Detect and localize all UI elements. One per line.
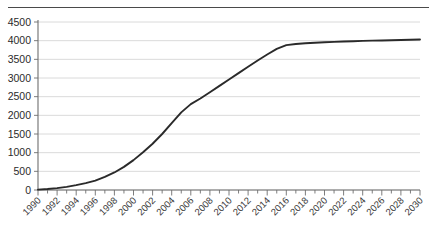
x-tick-label: 2004 [154, 195, 177, 218]
x-tick-label: 2026 [364, 195, 387, 218]
axis-lines [38, 20, 420, 190]
x-tick-label: 2022 [326, 195, 349, 218]
x-tick-label: 1990 [20, 195, 43, 218]
series-line [38, 40, 420, 190]
x-tick-label: 1992 [39, 195, 62, 218]
line-chart: 050010001500200025003000350040004500 199… [0, 0, 437, 233]
y-tick-label: 4500 [8, 16, 32, 28]
y-tick-label: 3000 [8, 72, 32, 84]
y-tick-label: 0 [25, 184, 31, 196]
x-tick-label: 1998 [97, 195, 120, 218]
x-tick-label: 2030 [402, 195, 425, 218]
x-tick-label: 2010 [211, 195, 234, 218]
y-tick-label: 1000 [8, 146, 32, 158]
x-tick-label: 2014 [249, 195, 272, 218]
x-tick-label: 2028 [383, 195, 406, 218]
x-axis-tick-labels: 1990199219941996199820002002200420062008… [20, 195, 425, 218]
y-tick-label: 2500 [8, 90, 32, 102]
x-tick-label: 2008 [192, 195, 215, 218]
y-tick-label: 3500 [8, 53, 32, 65]
x-tick-label: 1996 [77, 195, 100, 218]
chart-plot-area: 050010001500200025003000350040004500 199… [0, 0, 437, 233]
x-tick-label: 2012 [230, 195, 253, 218]
y-tick-label: 2000 [8, 109, 32, 121]
y-tick-label: 4000 [8, 34, 32, 46]
x-tick-label: 1994 [58, 195, 81, 218]
y-tick-marks [34, 22, 38, 190]
x-tick-label: 2018 [288, 195, 311, 218]
x-tick-marks [38, 190, 420, 196]
data-series [38, 40, 420, 190]
y-tick-label: 1500 [8, 128, 32, 140]
y-tick-label: 500 [13, 165, 31, 177]
x-tick-label: 2006 [173, 195, 196, 218]
x-tick-label: 2020 [307, 195, 330, 218]
x-tick-label: 2016 [268, 195, 291, 218]
x-tick-label: 2002 [135, 195, 158, 218]
y-axis-tick-labels: 050010001500200025003000350040004500 [8, 16, 32, 196]
x-tick-label: 2024 [345, 195, 368, 218]
x-tick-label: 2000 [116, 195, 139, 218]
gridlines [38, 22, 420, 190]
